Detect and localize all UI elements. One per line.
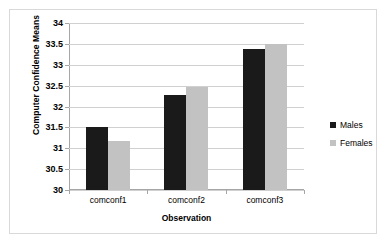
bar-males-comconf2[interactable] bbox=[164, 95, 186, 190]
bar-females-comconf2[interactable] bbox=[186, 87, 208, 190]
bar-males-comconf1[interactable] bbox=[86, 127, 108, 190]
bar-females-comconf1[interactable] bbox=[108, 141, 130, 190]
y-tick-label: 31 bbox=[53, 143, 63, 153]
chart-frame: Computer Confidence Means 3030.53131.532… bbox=[9, 9, 377, 234]
y-tick-label: 31.5 bbox=[45, 122, 63, 132]
bar-pair bbox=[86, 23, 130, 190]
legend-label: Females bbox=[340, 138, 373, 148]
legend-item-females[interactable]: Females bbox=[330, 138, 373, 148]
bar-males-comconf3[interactable] bbox=[243, 49, 265, 190]
x-tick-label: comconf2 bbox=[147, 195, 225, 205]
x-tick-label: comconf3 bbox=[226, 195, 304, 205]
x-axis-title: Observation bbox=[69, 213, 304, 223]
y-tick-label: 34 bbox=[53, 18, 63, 28]
y-tick-label: 32.5 bbox=[45, 81, 63, 91]
chart-legend: MalesFemales bbox=[330, 120, 373, 156]
x-tick-mark bbox=[226, 190, 227, 194]
y-tick-label: 32 bbox=[53, 102, 63, 112]
plot-inner: 3030.53131.53232.53333.534 comconf1comco… bbox=[69, 23, 304, 190]
y-axis-title: Computer Confidence Means bbox=[31, 5, 41, 145]
chart-title-remnant bbox=[160, 9, 250, 13]
legend-label: Males bbox=[340, 120, 363, 130]
gridline bbox=[69, 190, 304, 191]
bar-groups: comconf1comconf2comconf3 bbox=[69, 23, 304, 190]
bar-pair bbox=[243, 23, 287, 190]
y-tick-label: 30 bbox=[53, 185, 63, 195]
plot-area: 3030.53131.53232.53333.534 comconf1comco… bbox=[69, 23, 304, 190]
y-tick-label: 33.5 bbox=[45, 39, 63, 49]
x-tick-mark bbox=[147, 190, 148, 194]
legend-swatch-icon bbox=[330, 140, 336, 146]
x-tick-mark bbox=[69, 190, 70, 194]
bar-females-comconf3[interactable] bbox=[265, 44, 287, 190]
x-tick-mark bbox=[304, 190, 305, 194]
bar-group: comconf2 bbox=[147, 23, 225, 190]
bar-pair bbox=[164, 23, 208, 190]
bar-group: comconf1 bbox=[69, 23, 147, 190]
legend-item-males[interactable]: Males bbox=[330, 120, 373, 130]
y-tick-label: 30.5 bbox=[45, 164, 63, 174]
legend-swatch-icon bbox=[330, 122, 336, 128]
y-tick-label: 33 bbox=[53, 60, 63, 70]
bar-group: comconf3 bbox=[226, 23, 304, 190]
x-tick-label: comconf1 bbox=[69, 195, 147, 205]
